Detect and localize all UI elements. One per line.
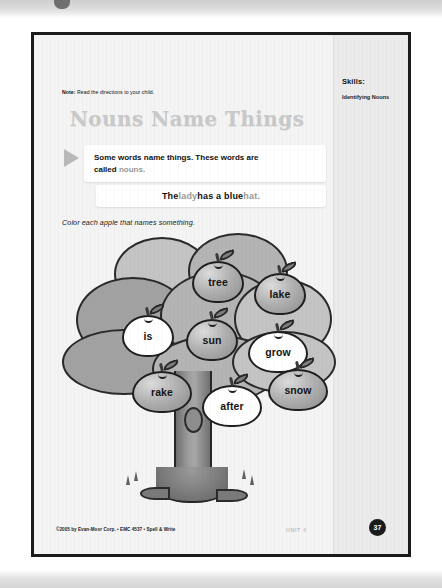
note-prefix: Note:: [62, 89, 76, 95]
apple-label: after: [202, 385, 262, 427]
tree-root: [216, 489, 248, 502]
apple-label: lake: [254, 273, 306, 315]
scanner-strip-top: [0, 0, 442, 18]
apple-label: sun: [186, 319, 238, 361]
apple-label: tree: [192, 261, 244, 303]
note-text: Read the directions to your child.: [77, 89, 154, 95]
apple-label: rake: [132, 371, 192, 413]
page-title: Nouns Name Things: [34, 107, 340, 131]
example-noun-lady: lady: [178, 191, 197, 201]
apple-tree[interactable]: tree: [192, 257, 244, 303]
apple-after[interactable]: after: [202, 381, 262, 427]
apple-tree-illustration: tree lake is sun: [56, 231, 336, 531]
tree-root: [140, 487, 170, 500]
example-words-middle: has a blue: [197, 191, 243, 201]
grass-tuft: [250, 475, 254, 485]
unit-label: UNIT 4: [286, 527, 307, 533]
scanner-strip-bottom: [0, 570, 442, 588]
apple-lake[interactable]: lake: [254, 269, 306, 315]
instruction-term-nouns: nouns.: [119, 165, 145, 174]
instruction-box: Some words name things. These words are …: [84, 145, 326, 182]
grass-tuft: [134, 471, 138, 481]
grass-tuft: [242, 469, 246, 479]
note-line: Note: Read the directions to your child.: [62, 89, 154, 95]
apple-snow[interactable]: snow: [268, 365, 328, 411]
skills-detail: Identifying Nouns: [342, 93, 402, 101]
apple-label: snow: [268, 369, 328, 411]
skills-heading: Skills:: [342, 77, 365, 86]
activity-direction: Color each apple that names something.: [62, 218, 195, 227]
example-sentence-box: The lady has a blue hat.: [96, 185, 326, 207]
worksheet-page: Skills: Identifying Nouns Note: Read the…: [31, 32, 411, 557]
copyright-line: ©2005 by Evan-Moor Corp. • EMC 4537 • Sp…: [56, 527, 175, 532]
triangle-pointer-icon: [64, 149, 79, 167]
apple-is[interactable]: is: [122, 311, 174, 357]
apple-rake[interactable]: rake: [132, 367, 192, 413]
apple-sun[interactable]: sun: [186, 315, 238, 361]
skills-rail: Skills: Identifying Nouns: [333, 35, 408, 554]
apple-label: is: [122, 315, 174, 357]
example-word-the: The: [162, 191, 179, 201]
page-canvas: Skills: Identifying Nouns Note: Read the…: [34, 35, 408, 554]
instruction-line-1: Some words name things. These words are: [94, 153, 259, 162]
grass-tuft: [126, 475, 130, 485]
example-noun-hat: hat.: [243, 191, 260, 201]
scanner-clip-icon: [54, 0, 70, 9]
page-number-badge: 37: [369, 519, 386, 536]
instruction-line-2-prefix: called: [94, 165, 119, 174]
